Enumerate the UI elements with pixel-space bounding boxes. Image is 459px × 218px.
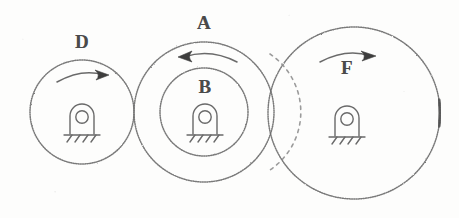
label-B: B bbox=[198, 77, 211, 96]
bearing-B bbox=[187, 104, 223, 142]
circle-A bbox=[134, 42, 274, 182]
figure-canvas: A B D F bbox=[0, 0, 459, 218]
thick-edge-mark-F bbox=[439, 100, 440, 126]
circle-D bbox=[30, 60, 134, 164]
bearing-D bbox=[64, 104, 100, 142]
bearing-F bbox=[329, 106, 365, 144]
arrow-D bbox=[57, 70, 109, 82]
label-F: F bbox=[341, 58, 353, 77]
arrow-A bbox=[178, 51, 237, 62]
label-D: D bbox=[75, 32, 89, 51]
label-A: A bbox=[197, 13, 211, 32]
gear-train-diagram bbox=[0, 0, 459, 218]
